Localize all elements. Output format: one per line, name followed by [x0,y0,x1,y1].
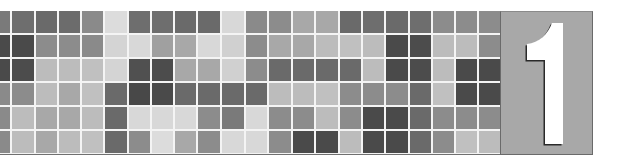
grid-cell [246,35,267,57]
grid-cell [456,35,477,57]
grid-cell [59,35,80,57]
grid-cell [82,59,103,81]
grid-cell [0,59,10,81]
grid-cell [340,131,361,153]
grid-cell [410,131,431,153]
grid-cell [175,83,196,105]
grid-cell [479,59,500,81]
grid-cell [59,59,80,81]
grid-cell [152,11,173,33]
grid-cell [82,131,103,153]
grid-cell [363,107,384,129]
grid-cell [386,107,408,129]
grid-cell [386,83,408,105]
grid-cell [175,59,196,81]
grid-cell [152,59,173,81]
grid-cell [479,131,500,153]
grid-cell [410,83,431,105]
grid-cell [433,59,454,81]
grid-cell [363,131,384,153]
grid-cell [129,59,150,81]
grid-cell [12,107,34,129]
grid-row [0,83,500,105]
grid-cell [82,35,103,57]
grid-cell [105,131,127,153]
grid-cell [386,131,408,153]
grid-cell [433,11,454,33]
grid-row [0,59,500,81]
grid-cell [316,131,338,153]
grid-cell [12,11,34,33]
grid-cell [12,131,34,153]
grid-row [0,107,500,129]
grid-cell [129,83,150,105]
grid-cell [59,107,80,129]
grid-cell [0,11,10,33]
grid-cell [293,107,314,129]
grid-cell [269,107,291,129]
grid-cell [410,35,431,57]
grid-cell [198,59,220,81]
grid-cell [479,11,500,33]
grid-cell [0,35,10,57]
grid-cell [222,11,244,33]
grid-cell [340,35,361,57]
grid-cell [340,83,361,105]
grid-cell [222,131,244,153]
grid-cell [269,35,291,57]
grid-cell [222,35,244,57]
grid-cell [198,83,220,105]
grid-cell [59,131,80,153]
grid-cell [246,131,267,153]
grid-cell [433,83,454,105]
grid-cell [363,59,384,81]
chapter-banner-grid [0,11,500,155]
grid-cell [105,83,127,105]
grid-cell [340,107,361,129]
grid-cell [82,11,103,33]
grid-cell [479,107,500,129]
grid-cell [12,59,34,81]
grid-cell [246,11,267,33]
grid-cell [152,131,173,153]
grid-cell [316,83,338,105]
grid-cell [479,35,500,57]
grid-row [0,35,500,57]
grid-cell [198,107,220,129]
grid-cell [293,35,314,57]
grid-cell [316,11,338,33]
grid-cell [175,35,196,57]
grid-cell [246,83,267,105]
grid-cell [269,59,291,81]
grid-row [0,131,500,153]
grid-cell [198,11,220,33]
grid-cell [0,131,10,153]
grid-cell [36,83,57,105]
grid-cell [59,83,80,105]
grid-cell [12,83,34,105]
grid-cell [386,59,408,81]
grid-cell [433,107,454,129]
grid-cell [456,83,477,105]
grid-row [0,11,500,33]
grid-cell [316,35,338,57]
grid-cell [36,131,57,153]
grid-cell [105,107,127,129]
grid-cell [82,107,103,129]
grid-cell [269,83,291,105]
grid-cell [456,11,477,33]
grid-cell [36,59,57,81]
grid-cell [222,59,244,81]
grid-cell [105,35,127,57]
grid-cell [175,107,196,129]
grid-cell [36,107,57,129]
grid-cell [433,131,454,153]
grid-cell [105,59,127,81]
grid-cell [246,107,267,129]
grid-cell [316,59,338,81]
grid-cell [386,35,408,57]
grid-cell [12,35,34,57]
grid-cell [129,11,150,33]
grid-cell [129,35,150,57]
grid-cell [363,35,384,57]
